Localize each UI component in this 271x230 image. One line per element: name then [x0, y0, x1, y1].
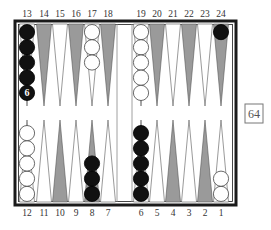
- white-checker[interactable]: [213, 186, 228, 201]
- white-checker[interactable]: [133, 40, 148, 55]
- white-checker[interactable]: [19, 171, 34, 186]
- point-label-17: 17: [87, 9, 97, 19]
- top-point-labels: 13 14 15 16 17 18 19 20 21 22 23 24: [22, 9, 226, 19]
- point-label-13: 13: [22, 9, 32, 19]
- point-label-24: 24: [216, 9, 226, 19]
- backgammon-board-view: 13 14 15 16 17 18 19 20 21 22 23 24 12 1…: [0, 0, 271, 230]
- black-checker[interactable]: [213, 24, 228, 39]
- point-label-8: 8: [90, 208, 95, 218]
- point-label-23: 23: [200, 9, 210, 19]
- white-checker[interactable]: [19, 141, 34, 156]
- black-checker[interactable]: [19, 55, 34, 70]
- point-label-14: 14: [39, 9, 49, 19]
- point-label-22: 22: [184, 9, 194, 19]
- black-checker[interactable]: [133, 156, 148, 171]
- point-label-4: 4: [171, 208, 176, 218]
- point-label-11: 11: [39, 208, 48, 218]
- white-checker[interactable]: [133, 55, 148, 70]
- point-label-3: 3: [187, 208, 192, 218]
- white-checker[interactable]: [84, 40, 99, 55]
- point-label-10: 10: [55, 208, 65, 218]
- point-label-19: 19: [136, 9, 146, 19]
- white-checker[interactable]: [133, 70, 148, 85]
- point-label-16: 16: [71, 9, 81, 19]
- white-checker[interactable]: [84, 24, 99, 39]
- black-checker[interactable]: [19, 40, 34, 55]
- cube-value: 64: [248, 107, 260, 121]
- white-checker[interactable]: [19, 186, 34, 201]
- white-checker[interactable]: [19, 156, 34, 171]
- black-checker[interactable]: [133, 141, 148, 156]
- point-label-15: 15: [55, 9, 65, 19]
- point-label-18: 18: [103, 9, 113, 19]
- point-label-9: 9: [74, 208, 79, 218]
- point-label-5: 5: [155, 208, 160, 218]
- black-checker[interactable]: [84, 156, 99, 171]
- black-checker[interactable]: [84, 186, 99, 201]
- point-label-2: 2: [203, 208, 208, 218]
- white-checker[interactable]: [213, 171, 228, 186]
- point-label-6: 6: [139, 208, 144, 218]
- black-checker[interactable]: [84, 171, 99, 186]
- black-checker[interactable]: [19, 70, 34, 85]
- point-label-7: 7: [106, 208, 111, 218]
- white-checker[interactable]: [84, 55, 99, 70]
- point-label-21: 21: [168, 9, 178, 19]
- white-checker[interactable]: [19, 126, 34, 141]
- black-checker[interactable]: [133, 126, 148, 141]
- white-checker[interactable]: [133, 24, 148, 39]
- bottom-point-labels: 12 11 10 9 8 7 6 5 4 3 2 1: [22, 208, 223, 218]
- black-checker[interactable]: [133, 171, 148, 186]
- white-checker[interactable]: [133, 85, 148, 100]
- black-checker[interactable]: [19, 24, 34, 39]
- point-label-20: 20: [152, 9, 162, 19]
- checker-count-label: 6: [25, 87, 30, 98]
- point-label-1: 1: [219, 208, 224, 218]
- black-checker[interactable]: [133, 186, 148, 201]
- doubling-cube[interactable]: 64: [245, 104, 263, 123]
- point-label-12: 12: [22, 208, 32, 218]
